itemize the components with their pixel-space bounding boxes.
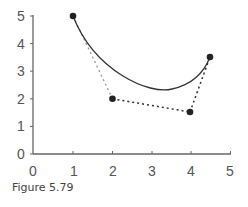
y-tick-label: 2 [17, 91, 25, 107]
x-tick-label: 0 [29, 163, 37, 179]
x-tick-label: 4 [187, 163, 195, 179]
y-tick-label: 0 [17, 146, 25, 162]
bezier-chart: 5 4 3 2 1 0 0 1 2 3 4 5 [0, 0, 248, 180]
x-tick-label: 1 [70, 163, 78, 179]
figure-caption: Figure 5.79 [12, 181, 74, 194]
control-points [70, 13, 214, 116]
y-tick-label: 5 [17, 8, 25, 24]
x-axis: 0 1 2 3 4 5 [29, 151, 234, 179]
bezier-curve [73, 16, 210, 90]
control-point [109, 96, 116, 103]
y-axis: 5 4 3 2 1 0 [17, 8, 33, 162]
control-point [70, 13, 77, 20]
control-polygon [73, 16, 210, 112]
y-tick-label: 1 [17, 118, 25, 134]
y-tick-label: 4 [17, 36, 25, 52]
x-tick-label: 3 [148, 163, 156, 179]
control-point [207, 54, 214, 61]
control-point [187, 109, 194, 116]
x-tick-label: 5 [226, 163, 234, 179]
x-tick-label: 2 [109, 163, 117, 179]
y-tick-label: 3 [17, 63, 25, 79]
